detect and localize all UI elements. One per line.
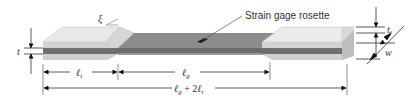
gage-length-label: ℓg (182, 67, 190, 80)
tab-thickness-dimension (356, 7, 385, 55)
angle-xi-label: ξ (98, 13, 103, 25)
angle-indicator (106, 19, 118, 25)
width-dimension (356, 26, 404, 64)
tab-length-label: ℓt (76, 67, 83, 80)
thickness-dimension (24, 28, 43, 74)
total-length-label: ℓg + 2ℓt (174, 83, 204, 96)
width-label: w (385, 47, 392, 58)
right-tab (262, 27, 354, 60)
specimen-diagram: Strain gage rosette ξ t tf w (0, 0, 420, 103)
strain-gage-label: Strain gage rosette (245, 10, 330, 21)
thickness-label: t (17, 46, 20, 57)
left-tab (43, 27, 134, 60)
